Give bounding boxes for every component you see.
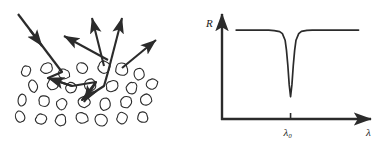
incident-ray-arrowhead [30, 30, 42, 46]
scattering-particle [136, 110, 149, 124]
scattering-particle [17, 93, 28, 107]
scattering-particle [145, 77, 160, 90]
scattering-particle [38, 95, 51, 108]
x-axis-label: λ [365, 126, 371, 138]
scattering-particle [116, 112, 128, 125]
scattering-particle [34, 113, 47, 126]
scattering-particle [98, 97, 111, 112]
scattering-particle [39, 62, 54, 75]
reflectance-spectrum-panel: R λ λ₀ [196, 0, 392, 147]
lambda0-tick-label: λ₀ [283, 126, 293, 138]
figure-root: R λ λ₀ [0, 0, 392, 147]
scattering-particle [125, 82, 137, 95]
scattering-particle [76, 62, 88, 74]
y-axis-label: R [205, 17, 213, 29]
scattering-particle [21, 65, 32, 77]
scattering-particle [105, 79, 120, 92]
scattering-particle [74, 111, 90, 126]
scattering-particle [119, 95, 133, 110]
scattered-ray-2 [92, 18, 104, 66]
scattering-particle [140, 93, 153, 106]
scattering-diagram-panel [0, 0, 196, 147]
reflectance-curve [236, 30, 358, 97]
scattering-particle [14, 110, 26, 123]
scattered-ray-4 [122, 40, 156, 68]
scattering-particle [27, 79, 38, 94]
scattering-particle [94, 113, 109, 128]
scattering-particle [55, 97, 69, 111]
scattering-particle [54, 114, 66, 127]
scattering-particle [133, 67, 145, 81]
incident-ray-arrow [18, 14, 62, 72]
